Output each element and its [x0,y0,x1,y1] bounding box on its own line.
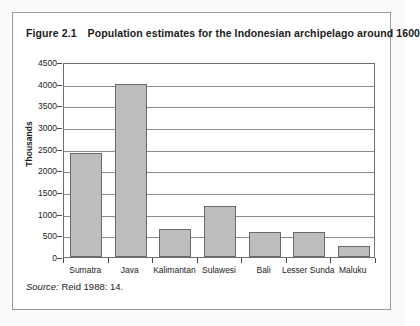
gridline [64,194,374,195]
y-axis-tick-mark [57,150,62,151]
y-axis-tick-mark [57,85,62,86]
x-axis-tick-mark [286,258,287,263]
gridline [64,107,374,108]
x-axis-tick-marks [63,258,375,264]
x-axis-tick-mark [63,258,64,263]
x-axis-tick-mark [330,258,331,263]
y-axis-tick-mark [57,171,62,172]
figure-number: Figure 2.1 [26,27,77,39]
x-axis-tick-label: Maluku [339,265,366,275]
x-axis-tick-mark [375,258,376,263]
x-axis-tick-label: Lesser Sunda [282,265,334,275]
gridline [64,151,374,152]
figure-box: Figure 2.1Population estimates for the I… [12,12,391,310]
bar-lesser-sunda [293,232,325,257]
y-axis-tick-mark [57,63,62,64]
chart-area: Thousands 050010001500200025003000350040… [13,51,392,283]
bar-sulawesi [204,206,236,257]
figure-title-text: Population estimates for the Indonesian … [88,27,420,39]
x-axis-tick-label: Sulawesi [202,265,236,275]
x-axis-tick-label: Java [121,265,139,275]
bar-maluku [338,246,370,257]
figure-title: Figure 2.1Population estimates for the I… [26,27,420,39]
source-label: Source: [26,281,59,292]
y-axis-tick-mark [57,215,62,216]
x-axis-tick-label: Bali [256,265,270,275]
x-axis-tick-mark [108,258,109,263]
bar-kalimantan [159,229,191,257]
source-line: Source: Reid 1988: 14. [26,281,123,292]
y-axis-tick-mark [57,106,62,107]
gridline [64,129,374,130]
source-text: Reid 1988: 14. [61,281,123,292]
bar-sumatra [70,153,102,257]
y-axis-tick-marks [13,63,63,258]
x-axis-tick-label: Sumatra [69,265,101,275]
x-axis-tick-mark [197,258,198,263]
gridline [64,86,374,87]
gridline [64,172,374,173]
plot-frame [63,63,375,258]
bar-java [115,84,147,257]
y-axis-tick-mark [57,258,62,259]
x-axis-tick-mark [152,258,153,263]
y-axis-tick-mark [57,128,62,129]
x-axis-tick-label: Kalimantan [153,265,196,275]
x-axis-tick-mark [241,258,242,263]
bar-bali [249,232,281,257]
x-axis-tick-labels: SumatraJavaKalimantanSulawesiBaliLesser … [63,265,375,281]
y-axis-tick-mark [57,193,62,194]
y-axis-tick-mark [57,236,62,237]
